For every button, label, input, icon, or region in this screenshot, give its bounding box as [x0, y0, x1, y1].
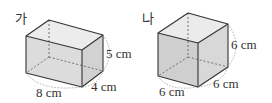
dimension-length-ga: 8 cm [36, 86, 62, 99]
prism-ga [26, 20, 110, 88]
figure-title-ga: 가 [15, 12, 27, 25]
dimension-height-na: 6 cm [231, 38, 257, 51]
dimension-height-ga: 5 cm [106, 47, 132, 60]
figure-title-na: 나 [142, 12, 154, 25]
dimension-length-na: 6 cm [159, 85, 185, 98]
dimension-width-ga: 4 cm [91, 80, 117, 93]
dimension-width-na: 6 cm [213, 77, 239, 90]
